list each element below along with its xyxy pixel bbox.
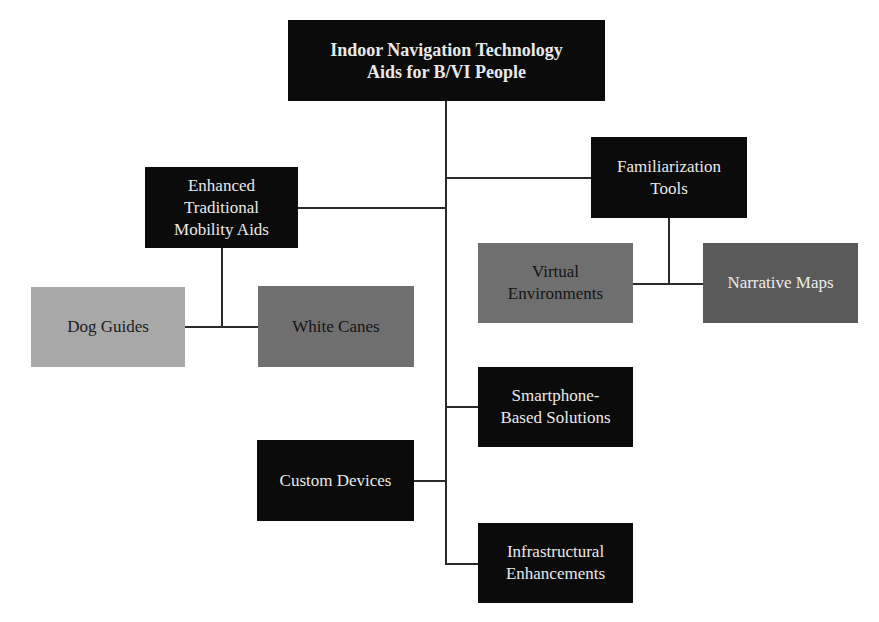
- node-infrastructural-enhancements: Infrastructural Enhancements: [478, 523, 633, 603]
- root-line-2: Aids for B/VI People: [367, 61, 526, 83]
- node-custom-devices: Custom Devices: [257, 440, 414, 521]
- enhanced-line-3: Mobility Aids: [174, 219, 269, 241]
- node-white-canes: White Canes: [258, 286, 414, 367]
- familiarization-line-1: Familiarization: [617, 156, 721, 178]
- connector-familiarization-down: [668, 218, 670, 284]
- root-node: Indoor Navigation Technology Aids for B/…: [288, 20, 605, 101]
- trunk-line: [445, 101, 447, 565]
- white-canes-label: White Canes: [292, 316, 379, 338]
- smartphone-line-2: Based Solutions: [500, 407, 610, 429]
- connector-familiarization: [446, 177, 592, 179]
- node-virtual-environments: Virtual Environments: [478, 243, 633, 323]
- infrastructural-line-2: Enhancements: [506, 563, 605, 585]
- smartphone-line-1: Smartphone-: [512, 385, 600, 407]
- connector-enhanced-children: [185, 326, 258, 328]
- connector-smartphone: [446, 406, 478, 408]
- dog-guides-label: Dog Guides: [67, 316, 149, 338]
- connector-enhanced: [298, 207, 446, 209]
- connector-infrastructural: [446, 563, 478, 565]
- root-line-1: Indoor Navigation Technology: [330, 39, 563, 61]
- familiarization-line-2: Tools: [650, 178, 688, 200]
- narrative-maps-label: Narrative Maps: [727, 272, 833, 294]
- virtual-line-1: Virtual: [532, 261, 579, 283]
- node-familiarization-tools: Familiarization Tools: [591, 137, 747, 218]
- infrastructural-line-1: Infrastructural: [507, 541, 604, 563]
- enhanced-line-1: Enhanced: [188, 175, 255, 197]
- virtual-line-2: Environments: [508, 283, 603, 305]
- connector-enhanced-down: [221, 248, 223, 327]
- node-narrative-maps: Narrative Maps: [703, 243, 858, 323]
- connector-familiarization-children: [633, 283, 703, 285]
- node-enhanced-traditional-mobility-aids: Enhanced Traditional Mobility Aids: [145, 167, 298, 248]
- enhanced-line-2: Traditional: [184, 197, 259, 219]
- connector-custom-devices: [414, 480, 446, 482]
- node-dog-guides: Dog Guides: [31, 287, 185, 367]
- custom-devices-label: Custom Devices: [280, 470, 392, 492]
- node-smartphone-based-solutions: Smartphone- Based Solutions: [478, 367, 633, 447]
